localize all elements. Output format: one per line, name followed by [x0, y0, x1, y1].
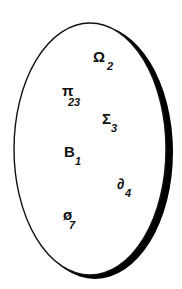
label-partial-subscript: 4 — [124, 187, 131, 199]
label-sigma-subscript: 3 — [111, 122, 117, 134]
label-omega-symbol: Ω — [93, 48, 105, 65]
label-sigma-symbol: Σ — [102, 110, 111, 127]
label-omega-subscript: 2 — [106, 60, 113, 72]
ellipse-diagram: Ω 2 π 23 Σ 3 B 1 ∂ 4 ø 7 — [0, 0, 182, 289]
label-phi-subscript: 7 — [69, 219, 76, 231]
label-beta-symbol: B — [64, 143, 75, 160]
ellipse-outline — [14, 23, 166, 275]
label-beta-subscript: 1 — [75, 155, 81, 167]
label-partial-symbol: ∂ — [117, 175, 124, 192]
label-pi-subscript: 23 — [67, 96, 80, 108]
